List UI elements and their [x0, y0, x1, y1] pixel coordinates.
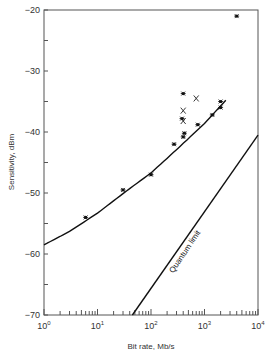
y-axis: −70−60−50−40−30−20: [25, 5, 48, 320]
quantum-limit-label: Quantum limit: [167, 228, 202, 275]
asterisk-marker: [181, 135, 186, 139]
y-tick-label: −60: [25, 249, 40, 259]
asterisk-marker: [182, 131, 187, 135]
x-axis-label: Bit rate, Mb/s: [127, 342, 174, 351]
plot-frame: [44, 10, 258, 315]
x-marker: [194, 95, 199, 101]
y-tick-label: −50: [25, 188, 40, 198]
data-points: [83, 14, 239, 219]
sensitivity-chart: −70−60−50−40−30−20 100101102103104 Bit r…: [0, 0, 272, 354]
y-tick-label: −20: [25, 5, 40, 15]
x-tick-label: 100: [37, 320, 51, 331]
asterisk-marker: [234, 14, 239, 18]
asterisk-marker: [172, 142, 177, 146]
x-tick-label: 104: [251, 320, 265, 331]
y-axis-label: Sensitivity, dBm: [7, 134, 16, 191]
asterisk-marker: [210, 113, 215, 117]
x-tick-label: 102: [144, 320, 158, 331]
x-axis: 100101102103104: [37, 309, 265, 331]
asterisk-marker: [121, 188, 126, 192]
x-tick-label: 103: [198, 320, 212, 331]
asterisk-marker: [149, 173, 154, 177]
y-tick-label: −70: [25, 310, 40, 320]
y-tick-label: −40: [25, 127, 40, 137]
asterisk-marker: [83, 215, 88, 219]
asterisk-marker: [181, 92, 186, 96]
x-marker: [181, 108, 186, 114]
y-tick-label: −30: [25, 66, 40, 76]
quantum-limit-line: [132, 135, 258, 315]
asterisk-marker: [195, 123, 200, 127]
x-tick-label: 101: [91, 320, 105, 331]
curves: [44, 100, 258, 315]
asterisk-marker: [218, 100, 223, 104]
asterisk-marker: [218, 106, 223, 110]
fitted-curve: [44, 100, 226, 245]
